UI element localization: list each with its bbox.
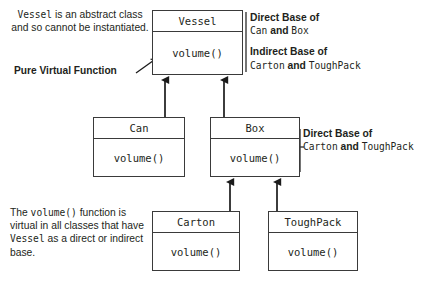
class-box-can[interactable]: Can volume() [93, 117, 185, 177]
note-box-direct-b: ToughPack [362, 141, 414, 152]
class-name-box: Box [211, 118, 299, 139]
note-virtual-function-mono: volume() [31, 207, 77, 218]
class-name-toughpack: ToughPack [269, 212, 357, 233]
uml-class-diagram: Vessel volume() Can volume() Box volume(… [0, 0, 435, 290]
note-vessel-indirect-heading: Indirect Base of [250, 45, 430, 58]
note-vessel-direct-joiner: and [267, 25, 291, 36]
note-box-direct-list: Carton and ToughPack [303, 140, 435, 153]
class-member-vessel: volume() [153, 32, 242, 74]
note-box-direct-a: Carton [303, 141, 338, 152]
note-pure-virtual-function: Pure Virtual Function [14, 64, 134, 77]
class-member-box: volume() [211, 139, 299, 176]
note-virtual-lead: The [10, 207, 31, 218]
class-member-toughpack: volume() [269, 233, 357, 270]
note-vessel-indirect-base: Indirect Base of Carton and ToughPack [250, 45, 430, 71]
class-member-can: volume() [94, 139, 184, 176]
note-vessel-direct-a: Can [250, 25, 267, 36]
note-virtual-class-mono: Vessel [10, 233, 45, 244]
class-box-box[interactable]: Box volume() [210, 117, 300, 177]
class-name-carton: Carton [153, 212, 239, 233]
note-box-direct-joiner: and [338, 141, 362, 152]
note-vessel-direct-heading: Direct Base of [250, 11, 430, 24]
note-vessel-indirect-list: Carton and ToughPack [250, 59, 430, 72]
note-vessel-direct-base: Direct Base of Can and Box [250, 11, 430, 37]
class-box-carton[interactable]: Carton volume() [152, 211, 240, 271]
note-vessel-direct-b: Box [291, 25, 308, 36]
class-member-carton: volume() [153, 233, 239, 270]
note-vessel-indirect-a: Carton [250, 60, 285, 71]
note-vessel-indirect-joiner: and [285, 60, 309, 71]
class-box-toughpack[interactable]: ToughPack volume() [268, 211, 358, 271]
note-vessel-direct-list: Can and Box [250, 24, 430, 37]
class-box-vessel[interactable]: Vessel volume() [152, 10, 243, 75]
note-abstract-class: Vessel is an abstract class and so canno… [10, 8, 150, 34]
class-name-vessel: Vessel [153, 11, 242, 32]
note-box-bases: Direct Base of Carton and ToughPack [303, 127, 435, 153]
note-vessel-bases: Direct Base of Can and Box Indirect Base… [250, 11, 430, 72]
note-box-direct-heading: Direct Base of [303, 127, 435, 140]
note-abstract-classname: Vessel [17, 9, 52, 20]
class-name-can: Can [94, 118, 184, 139]
note-virtual-in-all-classes: The volume() function is virtual in all … [10, 206, 152, 259]
note-vessel-indirect-b: ToughPack [309, 60, 361, 71]
